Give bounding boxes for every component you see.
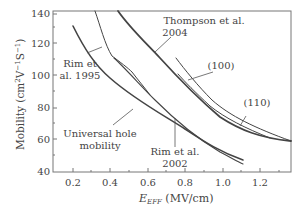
- annotation-rim-2002: Rim et al.: [151, 146, 200, 157]
- y-tick-label: 40: [37, 166, 50, 177]
- y-tick-label: 140: [31, 8, 50, 19]
- annotation-thompson-year: 2004: [162, 27, 187, 38]
- annotation-universal-2: mobility: [79, 140, 121, 151]
- leader-universal: [113, 109, 133, 125]
- mobility-chart: 140 120 100 80 60 40 0.2 0.4 0.6 0.8 1.0…: [0, 0, 306, 212]
- x-tick-label: 1.0: [215, 177, 231, 188]
- annotation-rim-2002-year: 2002: [162, 158, 187, 169]
- x-tick-label: 1.2: [252, 177, 268, 188]
- x-tick-label: 0.6: [140, 177, 156, 188]
- chart-container: 140 120 100 80 60 40 0.2 0.4 0.6 0.8 1.0…: [0, 0, 306, 212]
- y-axis-label: Mobility (cm2V−1S−1): [14, 39, 26, 150]
- annotation-universal: Universal hole: [63, 128, 137, 139]
- series-thompson-2004: [118, 11, 291, 141]
- leader-100: [188, 72, 213, 80]
- y-tick-label: 80: [37, 102, 50, 113]
- series-rim-1995: [95, 11, 150, 95]
- x-tick-label: 0.4: [102, 177, 118, 188]
- y-tick-label: 120: [31, 38, 50, 49]
- y-tick-label: 60: [37, 134, 50, 145]
- x-tick-label: 0.2: [65, 177, 81, 188]
- annotation-thompson: Thompson et al.: [163, 15, 244, 26]
- x-axis-label: EEFF (MV/cm): [138, 192, 213, 206]
- annotation-rim-1995-year: al. 1995: [60, 70, 101, 81]
- annotation-rim-1995: Rim et: [63, 58, 96, 69]
- x-tick-label: 0.8: [177, 177, 193, 188]
- leader-rim-1995: [87, 47, 102, 53]
- annotation-110: (110): [244, 97, 271, 108]
- annotation-100: (100): [208, 60, 235, 71]
- y-ticks: [53, 14, 57, 155]
- y-tick-label: 100: [31, 70, 50, 81]
- leader-thompson: [155, 37, 171, 52]
